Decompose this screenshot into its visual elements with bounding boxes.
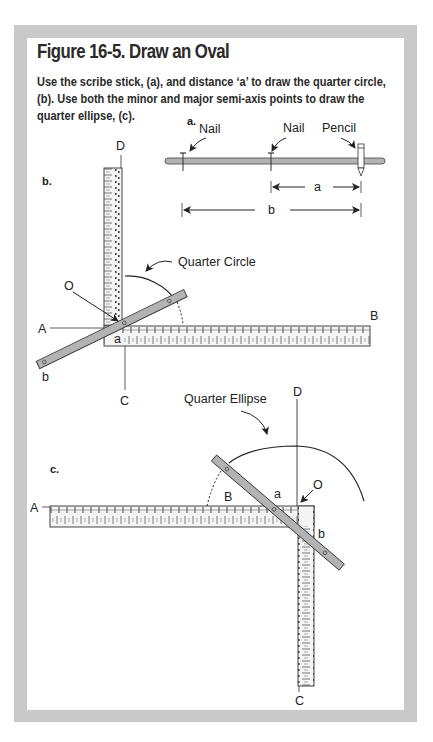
quarter-ellipse-label: Quarter Ellipse	[184, 392, 267, 406]
point-a-lower-label: a	[114, 332, 121, 346]
point-c-label: C	[295, 694, 304, 708]
quarter-circle-label: Quarter Circle	[178, 255, 256, 269]
panel-b-label: b.	[42, 175, 52, 187]
point-b-lower-label: b	[318, 527, 325, 541]
panel-b: b. D Quarter Circle A B C O a b	[36, 139, 378, 408]
dimension-b-label: b	[268, 203, 275, 217]
square-ruler-vertical	[104, 168, 122, 326]
panel-c-label: c.	[50, 463, 59, 475]
pencil-arrow-icon	[341, 138, 355, 148]
point-b-label: B	[224, 490, 232, 504]
oval-diagram: a. Nail Nail Pencil a	[0, 0, 433, 742]
pencil-label: Pencil	[322, 121, 356, 135]
nail-arrow-2-icon	[272, 138, 286, 151]
point-b-lower-label: b	[42, 370, 49, 384]
point-a-lower-label: a	[274, 487, 281, 501]
scribe-stick	[165, 158, 385, 164]
nail-label-2: Nail	[283, 121, 305, 135]
nail-label-1: Nail	[199, 122, 221, 136]
point-a-label: A	[38, 322, 47, 336]
pencil-icon	[358, 144, 364, 176]
panel-a-label: a.	[187, 115, 196, 127]
point-o-label: O	[313, 478, 323, 492]
square-ruler-horizontal	[104, 326, 370, 346]
point-o-label: O	[64, 279, 74, 293]
panel-a: a. Nail Nail Pencil a	[165, 115, 385, 217]
quarter-circle-arrow-icon	[146, 261, 172, 271]
point-b-label: B	[370, 309, 378, 323]
panel-c: c. D Quarter Ellipse A B a b O	[30, 385, 364, 708]
point-a-label: A	[30, 501, 39, 515]
quarter-ellipse-arrow-icon	[241, 411, 267, 434]
nail-arrow-1-icon	[190, 138, 206, 151]
point-d-label: D	[116, 139, 125, 153]
point-d-label: D	[293, 385, 302, 399]
dimension-a-label: a	[314, 180, 321, 194]
point-c-label: C	[120, 394, 129, 408]
